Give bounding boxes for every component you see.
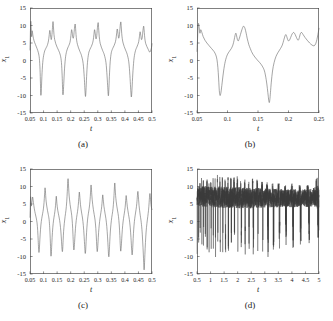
panel-a-curve — [30, 21, 152, 97]
panel-a-ytick-label: -5 — [0, 75, 26, 82]
panel-d-ytick-label: 15 — [167, 166, 193, 173]
panel-a-x-axis-label: t — [30, 124, 152, 133]
panel-b-ytick-label: 15 — [167, 5, 193, 12]
panel-a-ytick-label: 15 — [0, 5, 26, 12]
panel-d-x-axis-label: t — [197, 285, 319, 294]
panel-c-x-axis-label: t — [30, 285, 152, 294]
panel-a-axes — [30, 8, 152, 113]
panel-d-ytick-label: 5 — [167, 201, 193, 208]
panel-b-xtick-label: 0.05 — [184, 116, 210, 122]
panel-b: x1 0.050.10.150.20.25 t (b) 151050-5-10-… — [167, 0, 333, 160]
panel-c-xtick-label: 0.5 — [139, 277, 165, 283]
panel-d-curve — [197, 175, 319, 257]
panel-d-caption: (d) — [167, 300, 333, 310]
figure-four-timeseries-panels: x1 0.050.10.150.20.250.30.350.40.450.5 t… — [0, 0, 333, 321]
panel-b-ytick-label: -5 — [167, 75, 193, 82]
panel-d-ytick-label: -10 — [167, 253, 193, 260]
panel-b-ytick-label: -15 — [167, 110, 193, 117]
panel-a-plot-area — [30, 8, 152, 113]
panel-a-xtick-label: 0.5 — [139, 116, 165, 122]
panel-c-caption: (c) — [0, 300, 166, 310]
panel-b-axes — [197, 8, 319, 113]
panel-c-ytick-label: 0 — [0, 218, 26, 225]
panel-b-x-axis-label: t — [197, 124, 319, 133]
panel-b-ytick-label: -10 — [167, 92, 193, 99]
panel-c-ytick-label: 5 — [0, 201, 26, 208]
panel-b-xtick-label: 0.1 — [215, 116, 241, 122]
panel-b-caption: (b) — [167, 139, 333, 149]
panel-a-ytick-label: -10 — [0, 92, 26, 99]
panel-b-xtick-label: 0.25 — [306, 116, 332, 122]
panel-c-ytick-label: 15 — [0, 166, 26, 173]
panel-c-ytick-label: -15 — [0, 271, 26, 278]
panel-c-ytick-label: 10 — [0, 183, 26, 190]
panel-a: x1 0.050.10.150.20.250.30.350.40.450.5 t… — [0, 0, 166, 160]
panel-b-xtick-label: 0.2 — [276, 116, 302, 122]
panel-d-ytick-label: -5 — [167, 236, 193, 243]
panel-a-caption: (a) — [0, 139, 166, 149]
panel-d-plot-area — [197, 169, 319, 274]
panel-b-xtick-label: 0.15 — [245, 116, 271, 122]
panel-c-plot-area — [30, 169, 152, 274]
panel-a-ytick-label: 10 — [0, 22, 26, 29]
panel-d: x1 0.511.522.533.544.55 t (d) 151050-5-1… — [167, 161, 333, 321]
panel-c-axes — [30, 169, 152, 274]
panel-a-ytick-label: -15 — [0, 110, 26, 117]
panel-c-ytick-label: -10 — [0, 253, 26, 260]
panel-b-ytick-label: 5 — [167, 40, 193, 47]
panel-a-ytick-label: 0 — [0, 57, 26, 64]
panel-d-xtick-label: 5 — [306, 277, 332, 283]
panel-d-ytick-label: 10 — [167, 183, 193, 190]
panel-d-ytick-label: 0 — [167, 218, 193, 225]
panel-c-curve — [30, 179, 152, 270]
panel-b-ytick-label: 0 — [167, 57, 193, 64]
panel-c-ytick-label: -5 — [0, 236, 26, 243]
panel-d-ytick-label: -15 — [167, 271, 193, 278]
panel-b-curve — [197, 23, 319, 102]
panel-b-plot-area — [197, 8, 319, 113]
panel-a-ytick-label: 5 — [0, 40, 26, 47]
panel-c: x1 0.050.10.150.20.250.30.350.40.450.5 t… — [0, 161, 166, 321]
panel-d-axes — [197, 169, 319, 274]
panel-b-ytick-label: 10 — [167, 22, 193, 29]
